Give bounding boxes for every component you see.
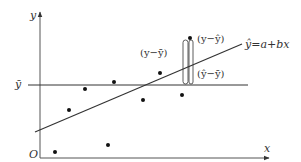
data-point bbox=[141, 98, 145, 102]
data-point bbox=[67, 108, 71, 112]
data-point bbox=[106, 143, 110, 147]
label-explained: (ŷ−ȳ) bbox=[197, 68, 225, 79]
label-residual: (y−ŷ) bbox=[197, 33, 225, 44]
bracket-total bbox=[183, 40, 188, 84]
regression-line bbox=[35, 44, 242, 132]
label-total-deviation: (y−ȳ) bbox=[140, 47, 168, 58]
y-axis-label: y bbox=[29, 9, 37, 22]
origin-label: O bbox=[29, 148, 38, 161]
data-point bbox=[83, 87, 87, 91]
regression-diagram: y x O ȳ ŷ=a+bx (y−ȳ) (y−ŷ) (ŷ−ȳ) bbox=[0, 0, 301, 162]
data-point bbox=[53, 150, 57, 154]
bracket-inner bbox=[189, 40, 193, 84]
mean-label: ȳ bbox=[14, 78, 22, 91]
data-point bbox=[158, 71, 162, 75]
data-point bbox=[188, 36, 192, 40]
data-point bbox=[180, 93, 184, 97]
data-point bbox=[112, 80, 116, 84]
regression-label: ŷ=a+bx bbox=[244, 38, 290, 51]
x-axis-label: x bbox=[264, 142, 271, 155]
